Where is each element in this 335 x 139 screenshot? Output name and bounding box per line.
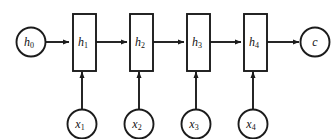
node-h1: h1 xyxy=(73,14,96,71)
node-x4: x4 xyxy=(239,110,268,139)
rnn-diagram-canvas: h0 h1 h2 h3 h4 c x1 xyxy=(0,0,335,139)
rnn-diagram: h0 h1 h2 h3 h4 c x1 xyxy=(0,0,335,139)
output-label: c xyxy=(312,35,318,49)
node-h3: h3 xyxy=(187,14,210,71)
node-h0: h0 xyxy=(17,28,46,57)
input-edges xyxy=(82,72,253,110)
node-x3: x3 xyxy=(182,110,211,139)
node-h4: h4 xyxy=(244,14,267,71)
node-x2: x2 xyxy=(125,110,154,139)
node-h2: h2 xyxy=(130,14,153,71)
node-output-c: c xyxy=(301,28,330,57)
node-x1: x1 xyxy=(68,110,97,139)
